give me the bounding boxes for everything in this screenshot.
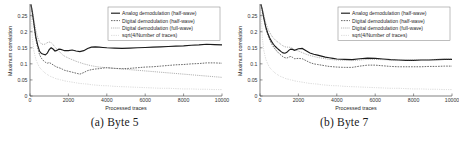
legend-label-3: sqrt(4/Number of traces) (352, 32, 408, 38)
y-tick-label: 0 (254, 93, 257, 99)
x-tick-label: 0 (29, 97, 32, 103)
plot-area-a: 020004000600080001000000.050.10.150.20.2… (0, 0, 230, 118)
x-tick-label: 10000 (215, 97, 230, 103)
x-tick-label: 8000 (178, 97, 190, 103)
x-tick-label: 0 (258, 97, 261, 103)
line-chart-byte5: 020004000600080001000000.050.10.150.20.2… (0, 0, 230, 118)
legend-label-2: Digital demodulation (full-wave) (122, 25, 193, 31)
y-tick-label: 0.05 (17, 77, 27, 83)
caption-panel-a: (a) Byte 5 (0, 116, 230, 128)
y-tick-label: 0.15 (247, 45, 257, 51)
y-tick-label: 0.2 (20, 29, 27, 35)
x-tick-label: 10000 (444, 97, 459, 103)
y-tick-label: 0.25 (17, 13, 27, 19)
y-tick-label: 0.15 (17, 45, 27, 51)
y-tick-label: 0.1 (20, 61, 27, 67)
legend-label-1: Digital demodulation (half-wave) (352, 18, 425, 24)
chart-panel-a: 020004000600080001000000.050.10.150.20.2… (0, 0, 230, 144)
y-tick-label: 0.05 (247, 77, 257, 83)
x-tick-label: 6000 (139, 97, 151, 103)
legend-label-1: Digital demodulation (half-wave) (122, 18, 195, 24)
y-tick-label: 0.25 (247, 13, 257, 19)
y-axis-label: Maximum correlation (237, 26, 243, 76)
legend-label-2: Digital demodulation (full-wave) (352, 25, 423, 31)
caption-panel-b: (b) Byte 7 (230, 116, 459, 128)
y-tick-label: 0.1 (250, 61, 257, 67)
plot-area-b: 020004000600080001000000.050.10.150.20.2… (230, 0, 459, 118)
x-axis-label: Processed traces (335, 105, 377, 111)
chart-panel-b: 020004000600080001000000.050.10.150.20.2… (230, 0, 459, 144)
x-tick-label: 6000 (369, 97, 381, 103)
figure-two-panel-charts: 020004000600080001000000.050.10.150.20.2… (0, 0, 459, 144)
x-tick-label: 2000 (63, 97, 75, 103)
y-tick-label: 0.2 (250, 29, 257, 35)
y-axis-label: Maximum correlation (7, 26, 13, 76)
legend-label-0: Analog demodulation (half-wave) (352, 10, 427, 16)
line-chart-byte7: 020004000600080001000000.050.10.150.20.2… (230, 0, 459, 118)
y-tick-label: 0 (25, 93, 28, 99)
legend-label-0: Analog demodulation (half-wave) (122, 10, 197, 16)
x-tick-label: 8000 (407, 97, 419, 103)
legend-label-3: sqrt(4/Number of traces) (122, 32, 178, 38)
x-tick-label: 4000 (331, 97, 343, 103)
x-tick-label: 4000 (101, 97, 113, 103)
x-tick-label: 2000 (292, 97, 304, 103)
x-axis-label: Processed traces (105, 105, 147, 111)
